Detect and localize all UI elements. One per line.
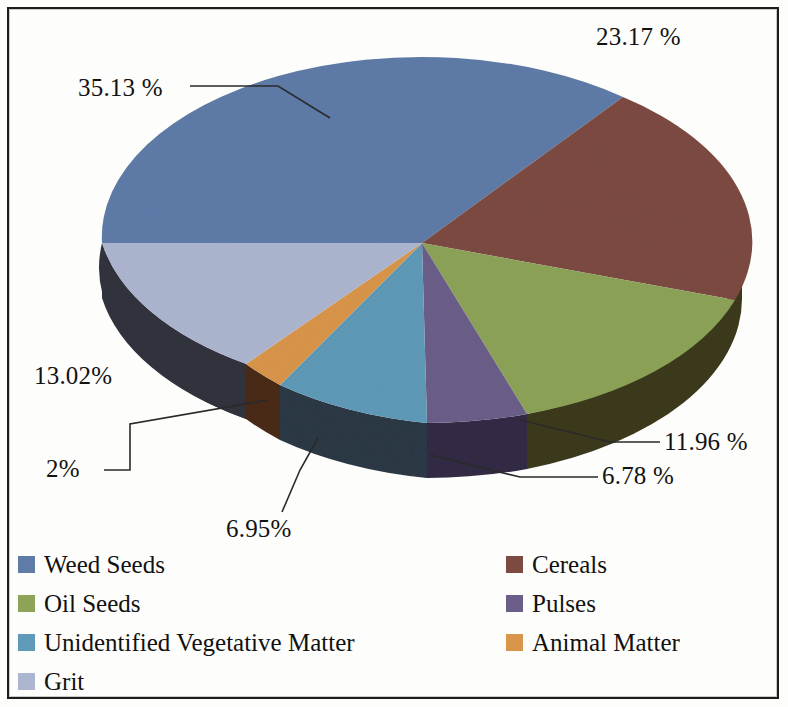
legend-swatch-icon <box>18 556 35 573</box>
legend-label: Animal Matter <box>532 630 680 655</box>
slice-label-animal-matter: 2% <box>46 455 80 483</box>
legend-item-cereals: Cereals <box>506 552 607 577</box>
legend-item-oil-seeds: Oil Seeds <box>18 591 141 616</box>
legend-swatch-icon <box>506 556 523 573</box>
pie-chart-figure: 35.13 % 23.17 % 11.96 % 6.78 % 6.95% 2% … <box>0 0 788 707</box>
legend-item-grit: Grit <box>18 669 84 694</box>
legend-label: Weed Seeds <box>44 552 165 577</box>
legend-swatch-icon <box>18 595 35 612</box>
legend-label: Pulses <box>532 591 596 616</box>
legend-item-unidentified-vegetative-matter: Unidentified Vegetative Matter <box>18 630 355 655</box>
legend-item-weed-seeds: Weed Seeds <box>18 552 165 577</box>
leader-line-uvm <box>282 438 318 512</box>
legend-swatch-icon <box>506 595 523 612</box>
legend-swatch-icon <box>506 634 523 651</box>
legend-label: Oil Seeds <box>44 591 141 616</box>
pie-wall-pulses <box>427 414 527 478</box>
legend-label: Unidentified Vegetative Matter <box>44 630 355 655</box>
slice-label-grit: 13.02% <box>34 362 112 390</box>
slice-label-weed-seeds: 35.13 % <box>78 74 163 102</box>
chart-legend: Weed Seeds Cereals Oil Seeds Pulses Unid… <box>18 548 770 698</box>
legend-item-pulses: Pulses <box>506 591 596 616</box>
legend-swatch-icon <box>18 673 35 690</box>
legend-label: Cereals <box>532 552 607 577</box>
chart-plot-area: 35.13 % 23.17 % 11.96 % 6.78 % 6.95% 2% … <box>0 0 788 545</box>
slice-label-pulses: 6.78 % <box>602 462 674 490</box>
slice-label-oil-seeds: 11.96 % <box>664 428 748 456</box>
slice-label-cereals: 23.17 % <box>596 23 681 51</box>
legend-label: Grit <box>44 669 84 694</box>
legend-swatch-icon <box>18 634 35 651</box>
legend-item-animal-matter: Animal Matter <box>506 630 680 655</box>
slice-label-unidentified-vegetative-matter: 6.95% <box>226 515 292 543</box>
